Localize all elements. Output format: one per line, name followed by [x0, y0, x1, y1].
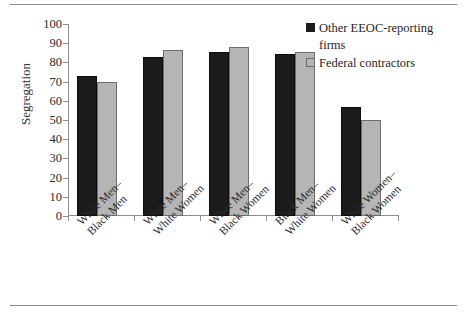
y-tick-label: 100	[22, 18, 62, 31]
legend-swatch-icon	[306, 23, 315, 32]
y-tick-label: 60	[22, 95, 62, 108]
chart-legend: Other EEOC-reportingfirmsFederal contrac…	[306, 20, 458, 74]
legend-label: Federal contractors	[319, 55, 458, 72]
legend-swatch-icon	[306, 58, 315, 67]
chart-figure: Segregation 0102030405060708090100 White…	[0, 0, 467, 318]
bar	[143, 57, 163, 216]
x-axis-tick	[398, 216, 399, 221]
y-tick-label: 70	[22, 75, 62, 88]
y-tick-label: 40	[22, 133, 62, 146]
bar	[209, 52, 229, 216]
legend-item[interactable]: Federal contractors	[306, 55, 458, 72]
bar	[275, 54, 295, 216]
y-tick-label: 50	[22, 114, 62, 127]
legend-label: Other EEOC-reportingfirms	[319, 20, 458, 53]
y-tick-label: 30	[22, 152, 62, 165]
y-tick-label: 10	[22, 191, 62, 204]
y-tick-label: 20	[22, 171, 62, 184]
y-tick-label: 90	[22, 37, 62, 50]
y-tick-label: 0	[22, 210, 62, 223]
x-axis-labels: White Men–Black MenWhite Men–White Women…	[68, 218, 398, 310]
y-tick-label: 80	[22, 56, 62, 69]
top-divider-rule	[10, 4, 457, 5]
legend-item[interactable]: Other EEOC-reportingfirms	[306, 20, 458, 53]
bar	[77, 76, 97, 216]
